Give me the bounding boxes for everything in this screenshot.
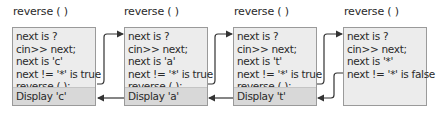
call-return-arrows <box>0 0 439 117</box>
call-arrow-1-to-2 <box>97 34 123 84</box>
return-arrow-4-to-3 <box>318 73 343 98</box>
call-arrow-3-to-4 <box>317 34 342 84</box>
call-arrow-2-to-3 <box>208 34 232 84</box>
